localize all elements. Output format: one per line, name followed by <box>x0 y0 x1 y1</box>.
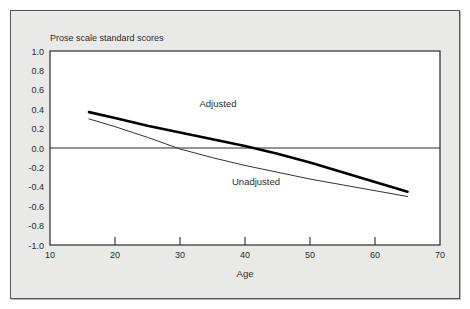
x-tick-label: 40 <box>240 250 250 260</box>
x-axis-label: Age <box>237 268 254 279</box>
figure-root: Prose scale standard scores 1.0 0.8 0.6 … <box>0 0 470 309</box>
y-tick-label: 0.4 <box>31 105 44 115</box>
y-axis-tick-labels: 1.0 0.8 0.6 0.4 0.2 0.0 -0.2 -0.4 -0.6 -… <box>28 47 44 251</box>
y-tick-label: 1.0 <box>31 47 44 57</box>
y-tick-label: 0.2 <box>31 124 44 134</box>
x-tick-label: 70 <box>435 250 445 260</box>
y-tick-label: -0.6 <box>28 202 44 212</box>
x-tick-label: 20 <box>110 250 120 260</box>
y-tick-label: -0.8 <box>28 221 44 231</box>
x-tick-label: 10 <box>45 250 55 260</box>
x-tick-label: 50 <box>305 250 315 260</box>
series-label-unadjusted: Unadjusted <box>232 176 280 187</box>
y-tick-label: 0.0 <box>31 144 44 154</box>
x-tick-label: 60 <box>370 250 380 260</box>
chart-title: Prose scale standard scores <box>50 33 164 43</box>
x-axis-tick-labels: 10 20 30 40 50 60 70 <box>45 250 445 260</box>
chart-canvas: Prose scale standard scores 1.0 0.8 0.6 … <box>0 0 470 309</box>
y-tick-label: -0.4 <box>28 182 44 192</box>
y-tick-label: -1.0 <box>28 241 44 251</box>
series-label-adjusted: Adjusted <box>200 98 237 109</box>
x-tick-label: 30 <box>175 250 185 260</box>
y-tick-label: -0.2 <box>28 163 44 173</box>
y-tick-label: 0.6 <box>31 85 44 95</box>
y-tick-label: 0.8 <box>31 66 44 76</box>
